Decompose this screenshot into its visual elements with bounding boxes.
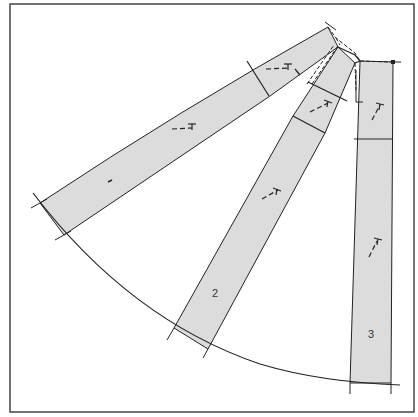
strip-2-end-tick <box>203 349 208 358</box>
strip-2-label: 2 <box>212 287 218 299</box>
pattern-diagram: 2 3 <box>0 0 418 417</box>
strip-2-end-tick <box>167 328 174 340</box>
strip-3: 3 <box>350 60 401 394</box>
strip-3-label: 3 <box>368 328 374 340</box>
